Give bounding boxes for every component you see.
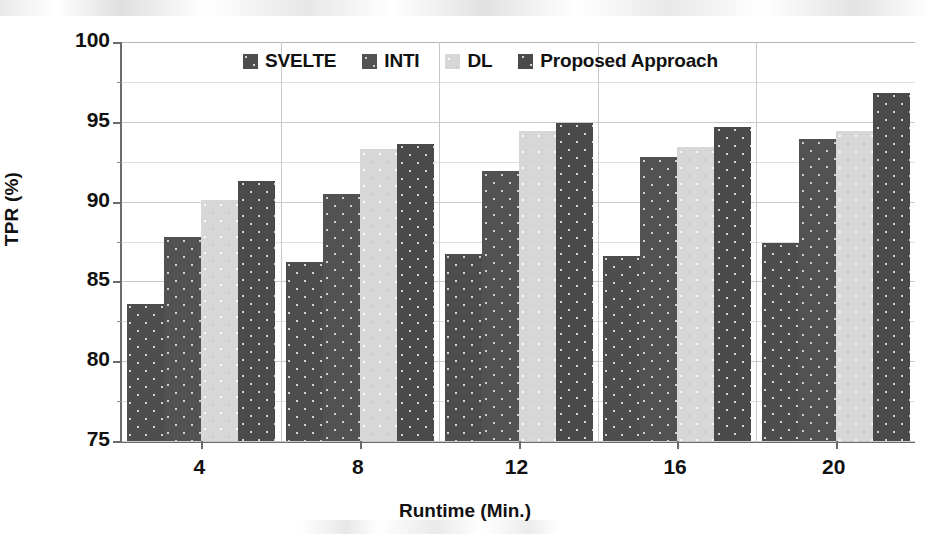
x-tick-label-12: 12 xyxy=(472,455,562,479)
legend-item-inti[interactable]: INTI xyxy=(362,50,419,72)
x-tick-20 xyxy=(836,441,838,449)
y-tick-major-85 xyxy=(113,281,122,283)
x-tick-4 xyxy=(201,441,203,449)
legend-label: Proposed Approach xyxy=(540,50,717,72)
y-tick-label-90: 90 xyxy=(52,188,110,212)
gridline-category-8 xyxy=(281,42,282,441)
y-tick-major-100 xyxy=(113,42,122,44)
legend-item-svelte[interactable]: SVELTE xyxy=(243,50,336,72)
y-tick-major-95 xyxy=(113,122,122,124)
bar-dl-16 xyxy=(677,147,714,441)
legend-item-proposed-approach[interactable]: Proposed Approach xyxy=(518,50,717,72)
scan-artifact-top xyxy=(0,0,930,16)
gridline-y-95 xyxy=(122,122,915,123)
bar-inti-20 xyxy=(799,139,836,441)
scan-artifact-bottom xyxy=(300,520,560,534)
y-tick-label-80: 80 xyxy=(52,347,110,371)
bar-inti-4 xyxy=(164,237,201,441)
x-tick-label-16: 16 xyxy=(630,455,720,479)
y-tick-minor-82.5 xyxy=(117,321,122,322)
chart-legend: SVELTEINTIDLProposed Approach xyxy=(243,48,718,74)
legend-swatch-dl xyxy=(445,54,460,69)
bar-inti-16 xyxy=(640,157,677,441)
x-tick-label-20: 20 xyxy=(789,455,879,479)
bar-proposed-approach-16 xyxy=(714,127,751,441)
gridline-y-100 xyxy=(122,42,915,43)
x-tick-label-4: 4 xyxy=(154,455,244,479)
bar-proposed-approach-12 xyxy=(556,123,593,441)
bar-dl-20 xyxy=(836,131,873,441)
legend-swatch-proposed xyxy=(518,54,533,69)
bar-dl-12 xyxy=(519,131,556,441)
bar-svelte-4 xyxy=(127,304,164,441)
y-tick-label-85: 85 xyxy=(52,267,110,291)
y-tick-label-95: 95 xyxy=(52,108,110,132)
legend-swatch-svelte xyxy=(243,54,258,69)
bar-inti-8 xyxy=(323,194,360,441)
plot-area xyxy=(120,42,915,443)
bar-svelte-16 xyxy=(603,256,640,441)
legend-label: DL xyxy=(467,50,492,72)
legend-label: INTI xyxy=(384,50,419,72)
y-tick-major-75 xyxy=(113,441,122,443)
bar-dl-4 xyxy=(201,200,238,441)
x-axis-title: Runtime (Min.) xyxy=(0,500,930,522)
y-tick-label-100: 100 xyxy=(52,28,110,52)
y-tick-major-80 xyxy=(113,361,122,363)
gridline-category-20 xyxy=(756,42,757,441)
gridline-category-12 xyxy=(439,42,440,441)
y-tick-major-90 xyxy=(113,202,122,204)
bar-dl-8 xyxy=(360,149,397,441)
y-tick-minor-77.5 xyxy=(117,401,122,402)
bar-inti-12 xyxy=(482,171,519,441)
bar-svelte-12 xyxy=(445,254,482,441)
bar-proposed-approach-20 xyxy=(873,93,910,441)
gridline-minor-y-97.5 xyxy=(122,82,915,83)
gridline-category-16 xyxy=(598,42,599,441)
bar-svelte-8 xyxy=(286,262,323,441)
x-tick-12 xyxy=(519,441,521,449)
y-tick-minor-92.5 xyxy=(117,162,122,163)
x-tick-8 xyxy=(360,441,362,449)
bar-svelte-20 xyxy=(762,243,799,441)
legend-label: SVELTE xyxy=(265,50,336,72)
bar-proposed-approach-8 xyxy=(397,144,434,441)
x-tick-label-8: 8 xyxy=(313,455,403,479)
y-tick-label-75: 75 xyxy=(52,427,110,451)
legend-item-dl[interactable]: DL xyxy=(445,50,492,72)
y-tick-minor-87.5 xyxy=(117,242,122,243)
y-axis-title: TPR (%) xyxy=(1,149,23,269)
bar-proposed-approach-4 xyxy=(238,181,275,441)
legend-swatch-inti xyxy=(362,54,377,69)
y-tick-minor-97.5 xyxy=(117,82,122,83)
x-tick-16 xyxy=(677,441,679,449)
bar-chart-figure: TPR (%) Runtime (Min.) 7580859095100 481… xyxy=(0,0,930,556)
